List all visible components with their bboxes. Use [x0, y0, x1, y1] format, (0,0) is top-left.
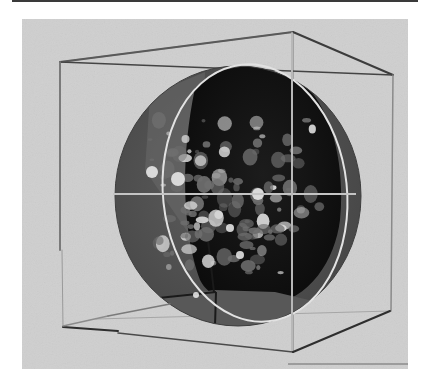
structure-blob [148, 138, 153, 141]
structure-blob [272, 175, 285, 182]
structure-highlight [236, 251, 244, 259]
structure-blob [155, 236, 163, 245]
structure-blob [250, 255, 265, 265]
structure-blob [182, 135, 190, 143]
structure-blob [187, 149, 191, 153]
structure-blob [194, 222, 200, 230]
structure-blob [190, 196, 204, 211]
structure-blob [275, 234, 287, 246]
structure-blob [257, 224, 271, 234]
structure-blob [149, 159, 154, 161]
sphere-in-cube-figure [0, 0, 429, 388]
structure-blob [270, 194, 282, 202]
structure-blob [202, 195, 209, 199]
structure-blob [195, 155, 206, 166]
structure-blob [214, 211, 223, 219]
structure-blob [271, 152, 285, 168]
structure-blob [259, 134, 265, 138]
structure-blob [264, 234, 275, 240]
structure-blob [228, 178, 233, 183]
structure-blob [187, 224, 194, 229]
structure-blob [197, 176, 212, 193]
structure-blob [211, 179, 225, 195]
structure-blob [288, 225, 299, 232]
structure-blob [294, 207, 310, 218]
structure-blob [219, 147, 230, 158]
structure-blob [257, 245, 267, 256]
structure-blob [219, 203, 228, 211]
structure-blob [314, 202, 324, 211]
structure-blob [270, 224, 284, 233]
structure-blob [302, 118, 311, 123]
structure-blob [240, 241, 254, 249]
structure-blob [264, 181, 274, 193]
structure-blob [185, 259, 194, 270]
structure-blob [253, 139, 262, 148]
structure-blob [181, 233, 188, 238]
structure-highlight [226, 224, 234, 232]
structure-blob [252, 149, 259, 155]
structure-blob [163, 252, 170, 257]
structure-blob [203, 141, 211, 147]
structure-blob [282, 133, 292, 146]
structure-blob [166, 264, 172, 270]
structure-blob [233, 178, 243, 185]
structure-blob [278, 271, 284, 274]
structure-blob [245, 270, 253, 274]
structure-highlight [146, 166, 158, 178]
structure-blob [202, 119, 206, 122]
structure-blob [256, 265, 260, 270]
structure-blob [309, 125, 316, 134]
structure-blob [170, 251, 174, 256]
structure-blob [253, 126, 260, 130]
structure-blob [218, 116, 232, 131]
structure-blob [195, 229, 203, 238]
structure-blob [196, 217, 209, 224]
structure-blob [180, 221, 189, 226]
structure-blob [202, 254, 215, 268]
structure-blob [172, 146, 187, 162]
structure-blob [244, 220, 250, 223]
structure-highlight [193, 292, 199, 298]
structure-blob [152, 112, 166, 129]
structure-blob [252, 232, 258, 239]
structure-blob [277, 208, 281, 212]
structure-blob [181, 244, 197, 254]
structure-highlight [171, 172, 185, 186]
